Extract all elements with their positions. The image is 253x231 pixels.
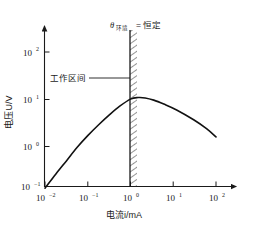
svg-text:10: 10 xyxy=(209,193,219,203)
svg-text:10: 10 xyxy=(23,95,33,105)
svg-text:0: 0 xyxy=(136,192,139,198)
x-axis-title: 电流i/mA xyxy=(106,209,142,220)
svg-text:10: 10 xyxy=(79,193,89,203)
svg-text:10: 10 xyxy=(21,182,31,192)
svg-text:2: 2 xyxy=(222,192,225,198)
hatched-working-band xyxy=(130,30,137,187)
y-axis-title: 电压U/V xyxy=(3,95,14,128)
svg-text:2: 2 xyxy=(36,46,39,52)
chart-container: 10 2 10 1 10 0 10 −1 10 −2 10 −1 10 0 10 xyxy=(0,0,253,231)
svg-text:1: 1 xyxy=(36,94,39,100)
svg-text:−2: −2 xyxy=(49,192,55,198)
theta-subscript: 环境 xyxy=(116,24,128,32)
svg-text:10: 10 xyxy=(123,193,133,203)
svg-text:10: 10 xyxy=(36,193,46,203)
svg-text:10: 10 xyxy=(166,193,176,203)
theta-symbol: θ xyxy=(110,20,114,30)
svg-text:10: 10 xyxy=(23,142,33,152)
uicharacteristic-chart: 10 2 10 1 10 0 10 −1 10 −2 10 −1 10 0 10 xyxy=(0,0,253,231)
svg-text:10: 10 xyxy=(23,48,33,58)
equals-constant: = 恒定 xyxy=(136,20,161,30)
svg-text:−1: −1 xyxy=(34,181,40,187)
svg-text:0: 0 xyxy=(36,141,39,147)
working-range-label: 工作区间 xyxy=(50,73,86,83)
svg-text:−1: −1 xyxy=(92,192,98,198)
svg-text:1: 1 xyxy=(179,192,182,198)
